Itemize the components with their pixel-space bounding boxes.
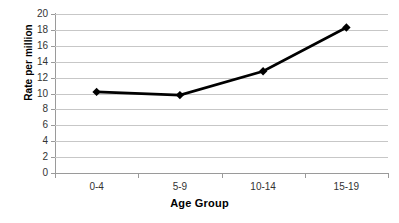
line-chart: Rate per million 02468101214161820 0-45-… xyxy=(0,0,399,223)
x-axis-title: Age Group xyxy=(0,197,399,209)
series-markers xyxy=(92,23,350,99)
data-point-marker xyxy=(92,88,100,96)
data-point-marker xyxy=(176,91,184,99)
series-layer xyxy=(0,0,399,223)
series-line-rate-per-million xyxy=(97,28,347,96)
